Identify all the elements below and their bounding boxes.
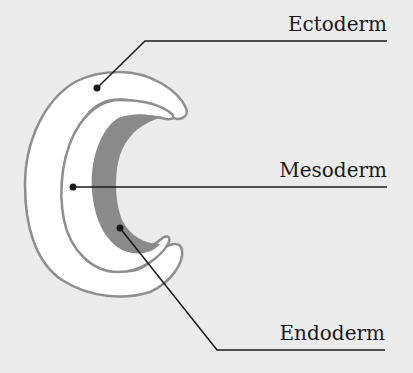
ectoderm-pointer-dot — [94, 85, 101, 92]
ectoderm-label: Ectoderm — [187, 12, 387, 36]
germ-layer-diagram — [0, 0, 413, 373]
endoderm-pointer-dot — [117, 225, 124, 232]
mesoderm-label: Mesoderm — [187, 158, 387, 182]
endoderm-label: Endoderm — [185, 321, 385, 345]
mesoderm-pointer-dot — [70, 184, 77, 191]
